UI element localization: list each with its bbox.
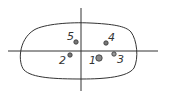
point-label-4: 4	[108, 31, 115, 44]
point-label-5: 5	[67, 30, 74, 43]
diagram-canvas: 1 2 3 4 5	[0, 0, 170, 97]
point-label-1: 1	[89, 54, 96, 67]
point-label-3: 3	[117, 53, 124, 66]
point-1: 1	[89, 54, 102, 67]
point-3: 3	[112, 52, 124, 66]
point-label-2: 2	[59, 54, 66, 67]
point-5: 5	[67, 30, 78, 44]
point-2: 2	[59, 53, 72, 67]
point-4: 4	[104, 31, 115, 45]
